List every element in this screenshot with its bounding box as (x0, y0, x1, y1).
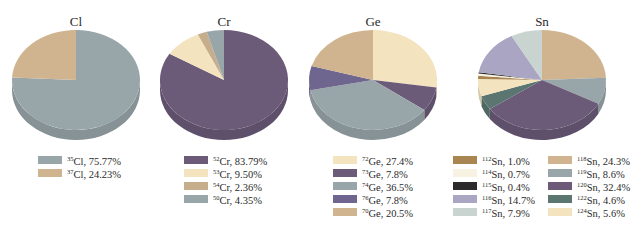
pie-slice-118Sn (542, 30, 606, 80)
legend-swatch (333, 182, 357, 190)
pie-chart-cr (156, 28, 292, 148)
legend-sn-right: 118Sn, 24.3%119Sn, 8.6%120Sn, 32.4%122Sn… (548, 153, 630, 218)
pie-slice-72Ge (373, 30, 437, 88)
legend-swatch (333, 169, 357, 177)
pie-slice-37Cl (12, 30, 76, 80)
legend-swatch (184, 195, 208, 203)
legend-item: 124Sn, 5.6% (548, 205, 630, 218)
legend-label: 50Cr, 4.35% (213, 191, 262, 207)
legend-swatch (548, 156, 572, 164)
legend-swatch (548, 208, 572, 216)
legend-swatch (184, 169, 208, 177)
legend-cr: 52Cr, 83.79%53Cr, 9.50%54Cr, 2.36%50Cr, … (184, 153, 267, 205)
legend-cl: 35Cl, 75.77%37Cl, 24.23% (38, 153, 121, 179)
pie-chart-ge (305, 28, 441, 148)
legend-swatch (333, 208, 357, 216)
pie-chart-cl (8, 28, 144, 148)
legend-label: 117Sn, 7.9% (482, 204, 530, 220)
legend-swatch (453, 208, 477, 216)
legend-swatch (38, 156, 62, 164)
legend-item: 70Ge, 20.5% (333, 205, 413, 218)
legend-swatch (453, 182, 477, 190)
legend-swatch (38, 169, 62, 177)
legend-item: 117Sn, 7.9% (453, 205, 535, 218)
legend-swatch (333, 156, 357, 164)
legend-item: 50Cr, 4.35% (184, 192, 267, 205)
legend-swatch (453, 195, 477, 203)
legend-label: 37Cl, 24.23% (67, 165, 121, 181)
legend-swatch (548, 195, 572, 203)
legend-ge: 72Ge, 27.4%73Ge, 7.8%74Ge, 36.5%76Ge, 7.… (333, 153, 413, 218)
legend-swatch (453, 156, 477, 164)
legend-label: 124Sn, 5.6% (577, 204, 625, 220)
legend-label: 70Ge, 20.5% (362, 204, 413, 220)
legend-swatch (333, 195, 357, 203)
legend-item: 37Cl, 24.23% (38, 166, 121, 179)
legend-sn-left: 112Sn, 1.0%114Sn, 0.7%115Sn, 0.4%116Sn, … (453, 153, 535, 218)
legend-swatch (548, 169, 572, 177)
legend-swatch (184, 182, 208, 190)
legend-swatch (548, 182, 572, 190)
legend-swatch (184, 156, 208, 164)
legend-swatch (453, 169, 477, 177)
pie-chart-sn (474, 28, 610, 148)
